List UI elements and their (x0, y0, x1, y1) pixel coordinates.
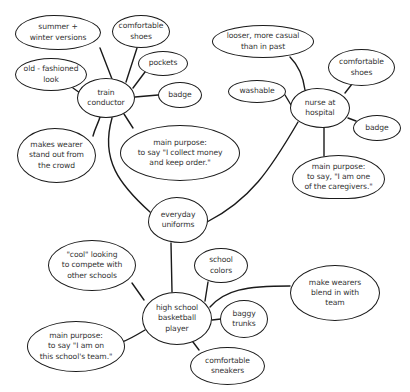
bubble-label: pockets (149, 58, 178, 68)
bubble-label: badge (168, 90, 191, 100)
bubble-label: comfortable shoes (119, 21, 164, 41)
bubble-label: baggy trunks (232, 309, 255, 329)
connector-train-t_purpose (124, 114, 133, 128)
bubble-n-looser: looser, more casual than in past (212, 25, 314, 58)
bubble-label: badge (365, 123, 388, 133)
bubble-nurse: nurse at hospital (290, 88, 350, 128)
bubble-label: nurse at hospital (305, 98, 336, 118)
connector-train-t_badge (135, 95, 158, 97)
bubble-train: train conductor (77, 78, 135, 118)
bubble-b-sneakers: comfortable sneakers (190, 347, 265, 385)
bubble-label: main purpose: to say "I collect money an… (138, 138, 223, 168)
bubble-n-badge: badge (353, 115, 401, 141)
bubble-label: "cool" looking to compete with other sch… (62, 250, 122, 280)
connector-nurse-n_badge (348, 118, 356, 121)
bubble-label: school colors (209, 255, 233, 275)
bubble-bball: high school basketball player (142, 292, 212, 345)
bubble-b-trunks: baggy trunks (220, 300, 268, 338)
bubble-label: high school basketball player (156, 303, 198, 333)
bubble-label: make wearers blend in with team (309, 278, 361, 308)
bubble-t-pockets: pockets (138, 51, 188, 76)
bubble-label: makes wearer stand out from the crowd (29, 140, 84, 170)
connector-bball-b_colors (205, 282, 208, 301)
bubble-label: main purpose: to say, "I am one of the c… (304, 162, 372, 192)
bubble-center: everyday uniforms (148, 197, 208, 243)
connector-train-t_summer (100, 48, 112, 79)
bubble-b-blend: make wearers blend in with team (290, 265, 380, 321)
bubble-n-purpose: main purpose: to say, "I am one of the c… (292, 155, 385, 199)
bubble-b-purpose: main purpose: to say "I am on this schoo… (27, 321, 125, 372)
bubble-t-purpose: main purpose: to say "I collect money an… (120, 125, 240, 181)
bubble-label: washable (239, 86, 274, 96)
bubble-n-shoes: comfortable shoes (328, 49, 395, 86)
bubble-t-oldfash: old - fashioned look (15, 58, 87, 91)
connector-nurse-n_shoes (345, 84, 352, 93)
bubble-t-summer: summer + winter versions (15, 15, 101, 50)
bubble-label: old - fashioned look (24, 64, 79, 84)
bubble-t-standout: makes wearer stand out from the crowd (17, 128, 96, 183)
bubble-label: looser, more casual than in past (227, 31, 300, 51)
bubble-b-cool: "cool" looking to compete with other sch… (48, 240, 136, 291)
bubble-label: summer + winter versions (30, 22, 87, 42)
connector-train-t_shoes (126, 48, 137, 82)
bubble-label: train conductor (87, 88, 124, 108)
mind-map-canvas: everyday uniformstrain conductorsummer +… (0, 0, 410, 392)
connector-bball-b_cool (132, 283, 144, 300)
connector-bball-b_sneakers (193, 342, 199, 350)
connector-bball-b_purpose (122, 330, 145, 342)
bubble-t-shoes: comfortable shoes (112, 15, 170, 48)
connector-train-t_standout (93, 117, 100, 136)
bubble-label: main purpose: to say "I am on this schoo… (40, 331, 113, 361)
bubble-b-colors: school colors (194, 248, 248, 283)
connector-train-t_pockets (133, 72, 145, 88)
bubble-label: everyday uniforms (161, 210, 196, 230)
connector-nurse-n_looser (290, 57, 305, 90)
connector-bball-center (171, 243, 172, 292)
bubble-label: comfortable sneakers (205, 356, 250, 376)
bubble-t-badge: badge (158, 82, 202, 108)
bubble-n-washable: washable (228, 80, 286, 103)
bubble-label: comfortable shoes (339, 57, 384, 77)
